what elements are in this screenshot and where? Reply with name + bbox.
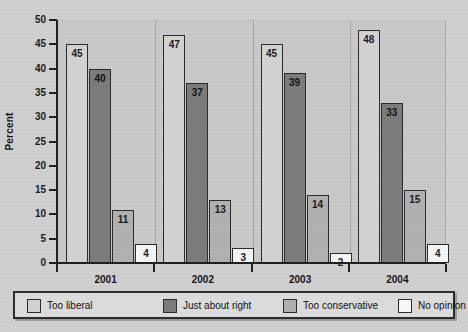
group-separator [155, 21, 156, 263]
y-axis-tick-label: 45 [18, 39, 46, 49]
legend-label: Too conservative [303, 300, 378, 312]
x-axis-label-2004: 2004 [362, 274, 432, 285]
y-axis-tick-label: 15 [18, 185, 46, 195]
x-axis-tick [445, 264, 447, 272]
y-axis-tick-label: 25 [18, 137, 46, 147]
bar-value-label: 4 [136, 248, 156, 259]
bar-2002-series-1: 37 [186, 83, 208, 263]
group-separator [253, 21, 254, 263]
bar-chart: 4540114473713345391424833154 05101520253… [0, 0, 468, 332]
bar-2003-series-0: 45 [261, 44, 283, 263]
legend-swatch-icon [27, 299, 41, 313]
bar-2004-series-0: 48 [358, 30, 380, 263]
x-axis-tick [153, 264, 155, 272]
bar-2001-series-0: 45 [66, 44, 88, 263]
bar-2004-series-3: 4 [427, 244, 449, 263]
bar-value-label: 47 [164, 39, 184, 50]
group-separator [350, 21, 351, 263]
bar-2002-series-0: 47 [163, 35, 185, 263]
y-axis-tick [49, 213, 57, 215]
y-axis-tick [49, 165, 57, 167]
bar-value-label: 13 [210, 204, 230, 215]
y-axis-tick [49, 141, 57, 143]
y-axis-tick-label: 0 [18, 258, 46, 268]
x-axis-line [50, 262, 446, 264]
y-axis-tick [49, 19, 57, 21]
y-axis-tick [49, 116, 57, 118]
legend-item-1[interactable]: Just about right [163, 298, 251, 314]
bar-2002-series-2: 13 [209, 200, 231, 263]
bar-value-label: 45 [262, 48, 282, 59]
bar-2001-series-3: 4 [135, 244, 157, 263]
x-axis-tick [56, 264, 58, 272]
y-axis-tick [49, 238, 57, 240]
x-axis-label-2002: 2002 [168, 274, 238, 285]
bar-2003-series-2: 14 [307, 195, 329, 263]
plot-area: 4540114473713345391424833154 [57, 20, 446, 263]
legend-item-2[interactable]: Too conservative [283, 298, 378, 314]
bar-value-label: 45 [67, 48, 87, 59]
chart-legend: Too liberalJust about rightToo conservat… [13, 291, 455, 319]
bar-2003-series-1: 39 [284, 73, 306, 263]
bar-value-label: 40 [90, 73, 110, 84]
bar-2001-series-1: 40 [89, 69, 111, 263]
y-axis-tick-label: 10 [18, 209, 46, 219]
legend-swatch-icon [163, 299, 177, 313]
y-axis-tick [49, 68, 57, 70]
y-axis-tick-label: 35 [18, 88, 46, 98]
legend-item-0[interactable]: Too liberal [27, 298, 93, 314]
bar-value-label: 33 [382, 107, 402, 118]
legend-item-3[interactable]: No opinion [398, 298, 466, 314]
y-axis-tick-label: 50 [18, 15, 46, 25]
x-axis-label-2003: 2003 [265, 274, 335, 285]
legend-label: Too liberal [47, 300, 93, 312]
bar-value-label: 14 [308, 199, 328, 210]
y-axis-tick [49, 189, 57, 191]
bar-value-label: 4 [428, 248, 448, 259]
bar-2001-series-2: 11 [112, 210, 134, 263]
y-axis-title: Percent [4, 102, 15, 162]
bar-value-label: 11 [113, 214, 133, 225]
y-axis-tick-label: 30 [18, 112, 46, 122]
bar-2004-series-1: 33 [381, 103, 403, 263]
x-axis-tick [348, 264, 350, 272]
legend-label: Just about right [183, 300, 251, 312]
y-axis-tick-label: 40 [18, 64, 46, 74]
legend-swatch-icon [283, 299, 297, 313]
bar-value-label: 48 [359, 34, 379, 45]
bar-value-label: 39 [285, 77, 305, 88]
y-axis-tick-label: 20 [18, 161, 46, 171]
bar-value-label: 37 [187, 87, 207, 98]
bar-2002-series-3: 3 [232, 248, 254, 263]
legend-label: No opinion [418, 300, 466, 312]
bar-value-label: 15 [405, 194, 425, 205]
y-axis-tick [49, 43, 57, 45]
bar-2004-series-2: 15 [404, 190, 426, 263]
legend-swatch-icon [398, 299, 412, 313]
y-axis-tick [49, 92, 57, 94]
x-axis-tick [251, 264, 253, 272]
x-axis-label-2001: 2001 [71, 274, 141, 285]
y-axis-tick-label: 5 [18, 234, 46, 244]
